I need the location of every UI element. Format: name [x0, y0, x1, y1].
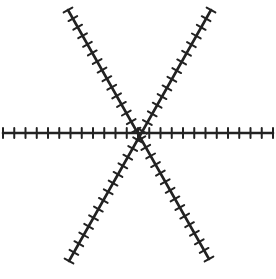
hatched-star-diagram: [0, 0, 276, 279]
hatched-lines-group: [3, 8, 273, 264]
line-stroke: [68, 10, 209, 259]
